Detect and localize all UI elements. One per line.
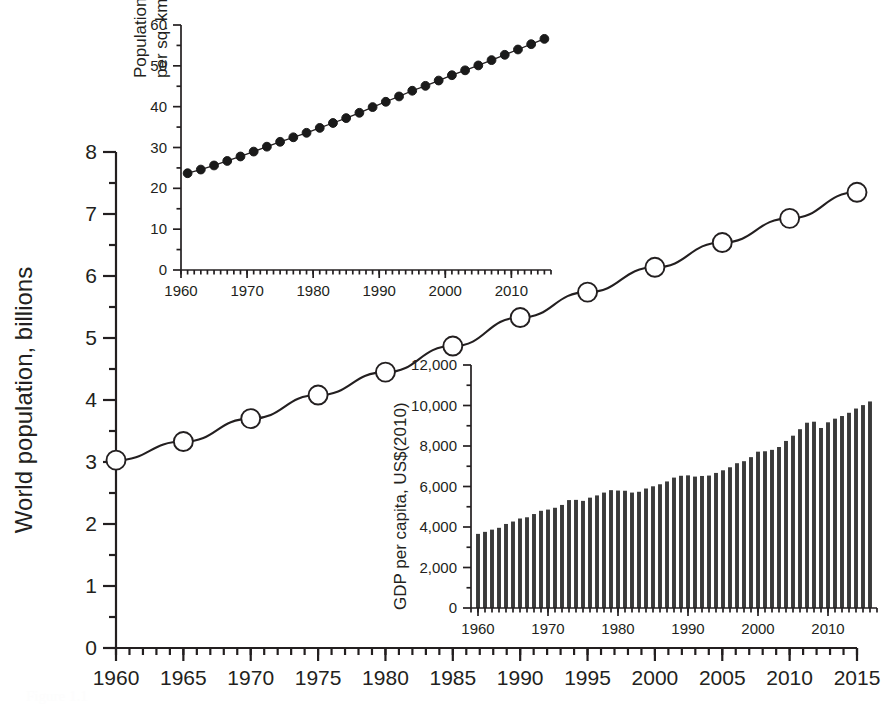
svg-text:6: 6: [85, 264, 97, 287]
gdp-bar: [805, 423, 809, 608]
main-y-axis-title-text: World population, billions: [10, 267, 37, 533]
svg-text:1995: 1995: [564, 666, 611, 689]
density-data-point: [249, 147, 258, 156]
gdp-bar: [546, 510, 550, 608]
density-data-point: [514, 45, 523, 54]
gdp-bar: [672, 478, 676, 608]
gdp-bar: [798, 429, 802, 608]
gdp-bar: [588, 498, 592, 608]
main-data-point: [107, 451, 126, 470]
density-y-axis-title-line2: per sq. km of land area): [152, 0, 171, 78]
gdp-bar: [525, 517, 529, 608]
main-x-axis: 1960196519701975198019851990199520002005…: [93, 648, 881, 689]
gdp-bar: [602, 493, 606, 608]
svg-text:3: 3: [85, 450, 97, 473]
density-y-axis-title-line1: Population density (people: [131, 0, 150, 78]
gdp-bar: [854, 409, 858, 608]
svg-text:1: 1: [85, 574, 97, 597]
main-y-axis-title: World population, billions: [10, 267, 37, 533]
gdp-bar: [777, 447, 781, 608]
gdp-bar: [721, 470, 725, 608]
svg-text:1970: 1970: [531, 620, 564, 637]
main-data-point: [511, 308, 530, 327]
gdp-bar: [658, 484, 662, 608]
gdp-bar: [812, 422, 816, 608]
density-data-point: [276, 137, 285, 146]
gdp-bar: [651, 486, 655, 608]
svg-text:1960: 1960: [93, 666, 140, 689]
svg-text:4: 4: [85, 388, 97, 411]
density-data-point: [355, 108, 364, 117]
gdp-bar: [742, 461, 746, 608]
gdp-bar: [574, 500, 578, 608]
svg-text:20: 20: [150, 179, 167, 196]
svg-text:1965: 1965: [160, 666, 207, 689]
inset-population-density-chart: 0102030405060 196019701980199020002010 P…: [131, 0, 551, 299]
gdp-bar: [833, 419, 837, 608]
svg-text:2: 2: [85, 512, 97, 535]
svg-text:4,000: 4,000: [419, 518, 457, 535]
gdp-x-axis: 196019701980199020002010: [461, 608, 877, 637]
svg-text:1980: 1980: [362, 666, 409, 689]
gdp-y-axis-title: GDP per capita, US$(2010): [391, 402, 410, 610]
svg-text:40: 40: [150, 98, 167, 115]
density-series-markers: [183, 34, 549, 177]
svg-text:1985: 1985: [429, 666, 476, 689]
gdp-bar: [763, 451, 767, 608]
density-data-point: [210, 161, 219, 170]
density-data-point: [329, 119, 338, 128]
svg-text:2010: 2010: [811, 620, 844, 637]
gdp-bar: [784, 441, 788, 608]
gdp-bar: [665, 481, 669, 608]
density-data-point: [434, 76, 443, 85]
figure-canvas: 012345678 196019651970197519801985199019…: [0, 0, 894, 710]
gdp-bar: [560, 505, 564, 608]
gdp-bar: [504, 524, 508, 608]
svg-text:1980: 1980: [601, 620, 634, 637]
gdp-bar: [609, 490, 613, 608]
svg-text:0: 0: [85, 636, 97, 659]
gdp-bar: [497, 528, 501, 608]
main-data-point: [848, 183, 867, 202]
gdp-bar: [840, 416, 844, 608]
density-data-point: [315, 124, 324, 133]
gdp-bar: [511, 522, 515, 608]
svg-text:1990: 1990: [671, 620, 704, 637]
svg-text:1980: 1980: [296, 282, 329, 299]
main-data-point: [443, 337, 462, 356]
svg-text:8,000: 8,000: [419, 437, 457, 454]
svg-text:1960: 1960: [461, 620, 494, 637]
svg-text:8: 8: [85, 140, 97, 163]
svg-text:5: 5: [85, 326, 97, 349]
gdp-bar: [861, 405, 865, 608]
main-data-point: [174, 432, 193, 451]
inset-gdp-chart: 02,0004,0006,0008,00010,00012,000 196019…: [391, 356, 877, 637]
gdp-bar: [490, 530, 494, 608]
main-y-axis: 012345678: [85, 140, 116, 659]
gdp-bar: [847, 413, 851, 608]
svg-text:1975: 1975: [295, 666, 342, 689]
density-data-point: [223, 157, 232, 166]
figure-root: 012345678 196019651970197519801985199019…: [0, 0, 894, 710]
svg-text:10: 10: [150, 220, 167, 237]
svg-text:12,000: 12,000: [411, 356, 457, 373]
density-data-point: [408, 86, 417, 95]
gdp-bar: [749, 457, 753, 608]
density-data-point: [461, 66, 470, 75]
gdp-y-axis: 02,0004,0006,0008,00010,00012,000: [411, 356, 471, 616]
gdp-bar: [595, 495, 599, 608]
svg-text:1970: 1970: [227, 666, 274, 689]
gdp-bar: [693, 477, 697, 608]
gdp-bar: [868, 401, 872, 608]
svg-text:2,000: 2,000: [419, 559, 457, 576]
gdp-bar: [791, 436, 795, 608]
gdp-bar: [707, 476, 711, 608]
density-data-point: [474, 61, 483, 70]
svg-text:10,000: 10,000: [411, 397, 457, 414]
gdp-bar: [637, 492, 641, 608]
gdp-bar: [700, 476, 704, 608]
svg-text:1990: 1990: [363, 282, 396, 299]
svg-text:1990: 1990: [497, 666, 544, 689]
gdp-bar: [567, 500, 571, 608]
density-data-point: [196, 165, 205, 174]
